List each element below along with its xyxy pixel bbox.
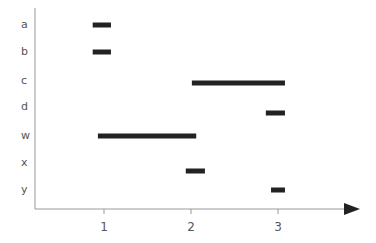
x-tick-label-2: 2 bbox=[187, 220, 195, 234]
category-label-a: a bbox=[21, 18, 28, 31]
bar-b bbox=[93, 50, 111, 55]
bar-c bbox=[192, 81, 285, 86]
x-ticks: 123 bbox=[100, 209, 282, 234]
x-axis-arrow-icon bbox=[344, 203, 360, 215]
bar-w bbox=[98, 134, 196, 139]
interval-chart: abcdwxy 123 bbox=[0, 0, 376, 243]
category-label-d: d bbox=[21, 100, 28, 113]
category-label-w: w bbox=[21, 129, 30, 142]
x-tick-label-3: 3 bbox=[274, 220, 282, 234]
bar-y bbox=[271, 188, 285, 193]
x-tick-label-1: 1 bbox=[100, 220, 108, 234]
bars-group bbox=[93, 23, 285, 193]
category-label-y: y bbox=[21, 183, 28, 196]
category-labels: abcdwxy bbox=[21, 18, 30, 196]
bar-a bbox=[93, 23, 111, 28]
category-label-x: x bbox=[21, 156, 28, 169]
bar-x bbox=[186, 169, 205, 174]
bar-d bbox=[266, 111, 285, 116]
category-label-c: c bbox=[21, 74, 27, 87]
category-label-b: b bbox=[21, 45, 28, 58]
